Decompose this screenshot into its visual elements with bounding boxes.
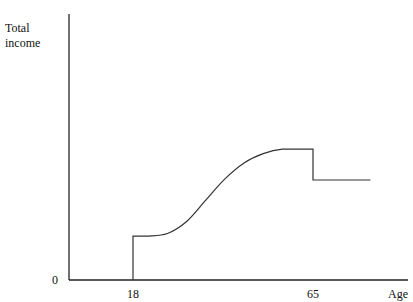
series-line-0 <box>133 149 370 280</box>
x-tick-label-18: 18 <box>127 287 139 301</box>
y-axis-label-line2: income <box>5 36 40 50</box>
origin-label: 0 <box>52 273 58 287</box>
x-tick-label-65: 65 <box>307 287 319 301</box>
x-axis-label: Age <box>388 287 408 301</box>
y-axis-label-line1: Total <box>5 21 30 35</box>
income-chart: Total income 0 Age 1865 <box>0 0 413 302</box>
